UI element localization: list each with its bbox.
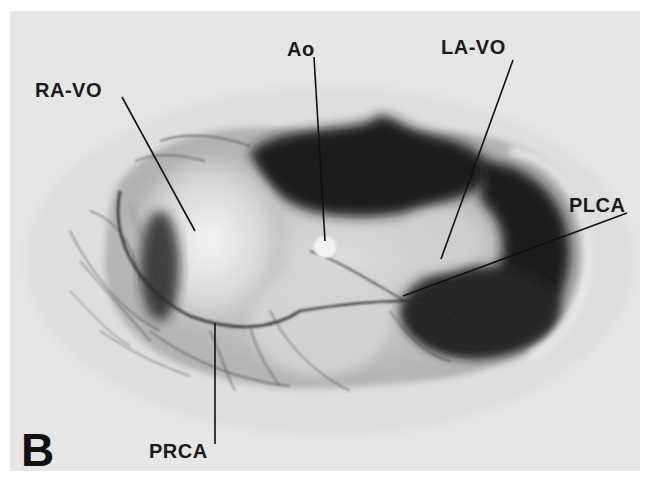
label-plca: PLCA: [569, 195, 625, 215]
plca-leader-line: [403, 213, 627, 296]
label-la-vo: LA-VO: [441, 37, 506, 57]
label-ao: Ao: [287, 39, 315, 59]
la-vo-leader-line: [441, 60, 513, 259]
panel-label: B: [21, 427, 54, 473]
leader-lines: [0, 0, 650, 477]
ao-leader-line: [314, 57, 325, 241]
label-prca: PRCA: [149, 441, 208, 461]
ra-vo-leader-line: [122, 97, 195, 231]
label-ra-vo: RA-VO: [35, 80, 102, 100]
